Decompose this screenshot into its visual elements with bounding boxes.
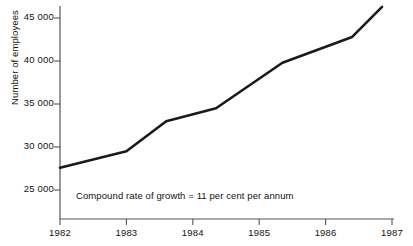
x-tick-label: 1985 [234,227,284,238]
x-tick-label: 1987 [367,227,413,238]
growth-rate-annotation: Compound rate of growth = 11 per cent pe… [76,190,294,202]
x-tick-label: 1984 [168,227,218,238]
x-tick-label: 1986 [301,227,351,238]
line-chart: 25 00030 00035 00040 00045 000 198219831… [0,0,413,246]
x-tick-label: 1982 [35,227,85,238]
x-axis-tick-labels: 198219831984198519861987 [0,0,413,246]
y-axis-title: Number of employees [9,0,20,118]
x-tick-label: 1983 [101,227,151,238]
